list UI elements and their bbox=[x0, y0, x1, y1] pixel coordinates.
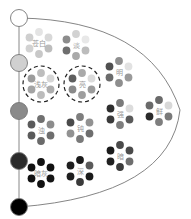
color-dot bbox=[82, 36, 90, 44]
color-dot bbox=[107, 147, 115, 155]
color-dot bbox=[125, 74, 133, 82]
color-dot bbox=[86, 173, 94, 181]
color-dot bbox=[76, 135, 84, 143]
color-dot bbox=[146, 102, 154, 110]
tone-diagram: 苍白淡明浅灰亮强鲜浊钝暗暗灰深 bbox=[0, 0, 191, 219]
color-dot bbox=[86, 130, 94, 138]
color-dot bbox=[76, 113, 84, 121]
color-dot bbox=[35, 50, 43, 58]
color-dot bbox=[125, 63, 133, 71]
color-dot bbox=[69, 86, 77, 94]
tone-cluster: 暗灰 bbox=[28, 158, 55, 188]
color-dot bbox=[155, 118, 163, 126]
color-dot bbox=[155, 96, 163, 104]
tone-label: 暗灰 bbox=[34, 169, 48, 178]
tone-label: 暗 bbox=[117, 152, 124, 161]
color-dot bbox=[78, 69, 86, 77]
color-dot bbox=[37, 115, 45, 123]
axis-step-light-gray-icon bbox=[11, 55, 28, 72]
color-dot bbox=[116, 163, 124, 171]
color-dot bbox=[86, 162, 94, 170]
color-dot bbox=[67, 173, 75, 181]
tone-label: 浊 bbox=[38, 126, 45, 135]
color-dot bbox=[78, 91, 86, 99]
color-dot bbox=[126, 158, 134, 166]
tone-label: 强 bbox=[117, 111, 124, 119]
tone-clusters: 苍白淡明浅灰亮强鲜浊钝暗暗灰深 bbox=[23, 28, 172, 188]
color-dot bbox=[76, 178, 84, 186]
tone-label: 深 bbox=[77, 167, 84, 176]
color-dot bbox=[72, 52, 80, 60]
tone-cluster: 强 bbox=[107, 99, 134, 129]
tone-cluster: 钝 bbox=[67, 113, 94, 143]
color-dot bbox=[165, 102, 173, 110]
color-dot bbox=[28, 132, 36, 140]
tone-label: 淡 bbox=[73, 42, 80, 50]
color-dot bbox=[37, 91, 45, 99]
tone-cluster: 鲜 bbox=[146, 96, 173, 126]
tone-cluster: 暗 bbox=[107, 141, 134, 171]
tone-label: 钝 bbox=[77, 124, 84, 133]
axis-step-black-icon bbox=[11, 199, 28, 216]
color-dot bbox=[37, 69, 45, 77]
color-dot bbox=[107, 116, 115, 124]
color-dot bbox=[116, 121, 124, 129]
axis-step-dark-gray-icon bbox=[11, 153, 28, 170]
color-dot bbox=[37, 158, 45, 166]
color-dot bbox=[106, 74, 114, 82]
tone-label: 鲜 bbox=[156, 107, 163, 116]
color-dot bbox=[47, 121, 55, 129]
color-dot bbox=[67, 130, 75, 138]
tone-label: 明 bbox=[116, 69, 123, 77]
color-dot bbox=[63, 47, 71, 55]
color-dot bbox=[116, 141, 124, 149]
color-dot bbox=[47, 132, 55, 140]
color-dot bbox=[28, 121, 36, 129]
color-dot bbox=[126, 116, 134, 124]
tone-cluster: 苍白 bbox=[26, 28, 53, 58]
color-dot bbox=[165, 113, 173, 121]
color-dot bbox=[88, 86, 96, 94]
color-dot bbox=[76, 156, 84, 164]
tone-label: 亮 bbox=[79, 80, 86, 89]
color-dot bbox=[107, 105, 115, 113]
color-dot bbox=[115, 79, 123, 87]
axis-step-white-icon bbox=[11, 10, 28, 27]
color-dot bbox=[37, 180, 45, 188]
color-dot bbox=[86, 119, 94, 127]
tone-cluster: 明 bbox=[106, 57, 133, 87]
color-dot bbox=[146, 113, 154, 121]
tone-cluster: 浅灰 bbox=[23, 66, 59, 102]
tone-cluster: 浊 bbox=[28, 115, 55, 145]
color-dot bbox=[72, 30, 80, 38]
tone-label: 苍白 bbox=[32, 39, 46, 48]
tone-cluster: 亮 bbox=[64, 66, 100, 102]
color-dot bbox=[115, 57, 123, 65]
color-dot bbox=[116, 99, 124, 107]
color-dot bbox=[126, 105, 134, 113]
tone-label: 浅灰 bbox=[34, 80, 48, 89]
color-dot bbox=[67, 162, 75, 170]
color-dot bbox=[67, 119, 75, 127]
color-dot bbox=[63, 36, 71, 44]
color-dot bbox=[107, 158, 115, 166]
tone-cluster: 淡 bbox=[63, 30, 90, 60]
color-dot bbox=[126, 147, 134, 155]
color-dot bbox=[35, 28, 43, 36]
color-dot bbox=[88, 75, 96, 83]
axis-step-mid-gray-icon bbox=[11, 103, 28, 120]
tone-cluster: 深 bbox=[67, 156, 94, 186]
color-dot bbox=[82, 47, 90, 55]
color-dot bbox=[37, 137, 45, 145]
color-dot bbox=[106, 63, 114, 71]
color-dot bbox=[69, 75, 77, 83]
